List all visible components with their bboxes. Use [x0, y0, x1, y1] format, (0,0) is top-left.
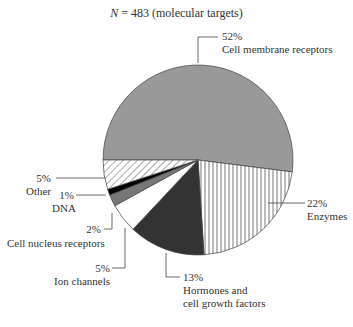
- pie-slice-cell-membrane-receptors: [103, 65, 293, 172]
- label-other: 5% Other: [26, 172, 51, 198]
- pie-slice-enzymes: [198, 160, 292, 255]
- label-cell-membrane-receptors: 52% Cell membrane receptors: [222, 30, 333, 56]
- pie-slices: [103, 65, 293, 255]
- label-dna: 1% DNA: [52, 189, 74, 215]
- label-enzymes: 22% Enzymes: [307, 197, 347, 223]
- label-cell-nucleus-receptors: Cell nucleus receptors: [7, 237, 105, 250]
- label-hormones: 13% Hormones and cell growth factors: [183, 271, 265, 310]
- label-nucleus-pct: 2%: [86, 223, 101, 236]
- chart-title: N = 483 (molecular targets): [0, 6, 353, 21]
- label-ion-channels: 5% Ion channels: [54, 262, 110, 288]
